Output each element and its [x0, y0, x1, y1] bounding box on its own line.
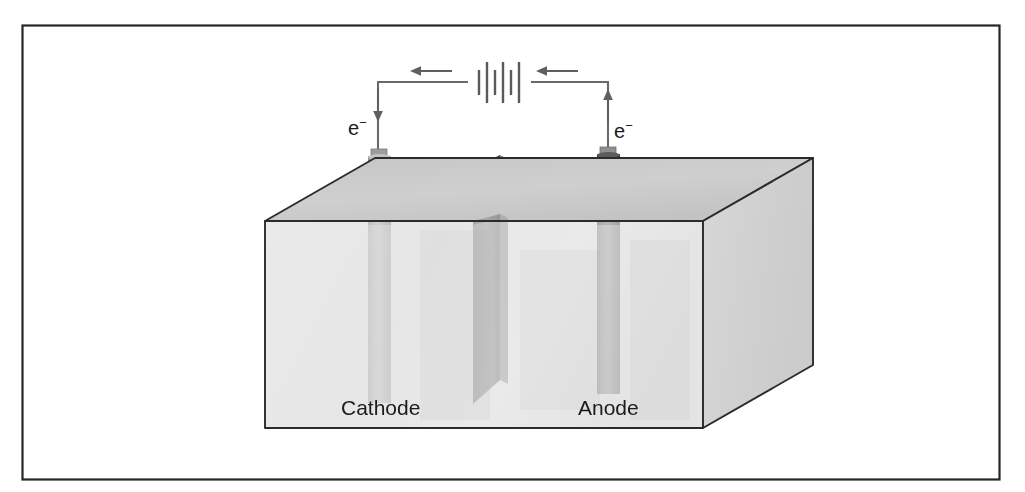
electrolytic-cell-figure: e− e− — [0, 0, 1025, 492]
cathode-label: Cathode — [341, 396, 420, 419]
anode-label: Anode — [578, 396, 639, 419]
tank-interior-shading — [420, 230, 690, 420]
figure-root: e− e− — [0, 0, 1025, 492]
